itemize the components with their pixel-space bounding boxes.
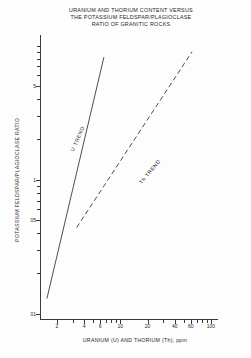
x-tick-label: 10 — [117, 324, 123, 329]
y-tick-label: 05 — [26, 218, 36, 223]
x-tick-label: 2 — [56, 324, 59, 329]
chart-title-line-3: RATIO OF GRANITIC ROCKS — [36, 21, 226, 28]
x-tick — [202, 320, 203, 323]
y-tick-label: 5 — [26, 83, 36, 88]
y-tick — [37, 193, 40, 194]
x-tick — [184, 320, 185, 323]
y-tick — [37, 186, 40, 187]
y-tick — [37, 59, 40, 60]
x-tick — [73, 320, 74, 323]
y-tick — [37, 139, 40, 140]
y-tick-label: 01 — [26, 311, 36, 316]
chart-title: URANIUM AND THORIUM CONTENT VERSUS THE P… — [36, 7, 226, 29]
x-tick — [111, 320, 112, 323]
y-tick — [37, 209, 40, 210]
y-tick — [36, 86, 40, 87]
y-tick — [37, 233, 40, 234]
y-axis-line — [40, 35, 41, 320]
y-tick — [36, 314, 40, 315]
chart-title-line-1: URANIUM AND THORIUM CONTENT VERSUS — [36, 7, 226, 14]
y-tick — [37, 46, 40, 47]
y-tick — [37, 250, 40, 251]
chart-figure: URANIUM AND THORIUM CONTENT VERSUS THE P… — [0, 0, 251, 358]
x-tick — [163, 320, 164, 323]
x-tick — [106, 320, 107, 323]
y-tick — [37, 66, 40, 67]
y-tick — [36, 180, 40, 181]
y-tick — [37, 116, 40, 117]
x-tick — [197, 320, 198, 323]
x-tick-label: 6 — [99, 324, 102, 329]
y-axis-title: POTASSIUM FELDSPAR/PLAGIOCLASE RATIO — [14, 60, 20, 300]
x-tick-label: 40 — [172, 324, 178, 329]
x-tick-label: 60 — [188, 324, 194, 329]
y-tick — [37, 52, 40, 53]
y-tick — [37, 201, 40, 202]
plot-area: 010515 24610204060100 — [40, 35, 218, 320]
x-tick-label: 100 — [207, 324, 215, 329]
x-axis-title: URANIUM (U) AND THORIUM (Th), ppm — [45, 337, 225, 343]
y-tick-label: 1 — [26, 177, 36, 182]
y-tick — [37, 75, 40, 76]
y-tick — [37, 99, 40, 100]
chart-title-line-2: THE POTASSIUM FELDSPAR/PLAGIOCLASE — [36, 14, 226, 21]
x-tick-label: 4 — [83, 324, 86, 329]
y-tick — [37, 273, 40, 274]
y-tick — [36, 220, 40, 221]
x-tick-label: 20 — [145, 324, 151, 329]
x-tick — [93, 320, 94, 323]
